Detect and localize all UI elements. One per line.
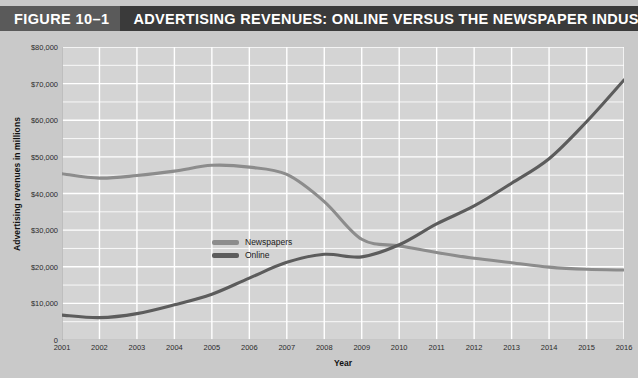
plot-wrap: NewspapersOnline: [62, 47, 624, 340]
x-tick-label: 2015: [578, 343, 595, 352]
x-tick-label: 2001: [54, 343, 71, 352]
figure-number: FIGURE 10–1: [0, 6, 120, 31]
x-tick-label: 2012: [466, 343, 483, 352]
y-tick-label: $40,000: [31, 189, 58, 198]
y-tick-label: $60,000: [31, 116, 58, 125]
x-tick-label: 2009: [353, 343, 370, 352]
legend-swatch-icon: [212, 253, 239, 258]
x-tick-label: 2004: [166, 343, 183, 352]
x-tick-label: 2005: [204, 343, 221, 352]
x-axis-tick-labels: 2001200220032004200520062007200820092010…: [62, 343, 624, 357]
y-tick-label: $80,000: [31, 43, 58, 52]
chart-legend: NewspapersOnline: [212, 237, 292, 260]
x-tick-label: 2006: [241, 343, 258, 352]
series-line-online: [62, 80, 624, 318]
x-tick-label: 2003: [129, 343, 146, 352]
figure-container: FIGURE 10–1 ADVERTISING REVENUES: ONLINE…: [0, 0, 638, 378]
x-tick-label: 2011: [429, 343, 445, 352]
legend-item-online[interactable]: Online: [212, 250, 292, 260]
x-tick-label: 2013: [503, 343, 520, 352]
chart-svg: [62, 47, 624, 340]
y-tick-label: $10,000: [31, 299, 58, 308]
x-axis-title: Year: [62, 358, 624, 368]
legend-label: Online: [245, 250, 270, 260]
legend-item-newspapers[interactable]: Newspapers: [212, 237, 292, 247]
x-tick-label: 2002: [91, 343, 108, 352]
x-tick-label: 2016: [616, 343, 633, 352]
x-tick-label: 2008: [316, 343, 333, 352]
figure-header: FIGURE 10–1 ADVERTISING REVENUES: ONLINE…: [0, 6, 638, 31]
x-tick-label: 2010: [391, 343, 408, 352]
y-tick-label: $30,000: [31, 226, 58, 235]
y-tick-label: $20,000: [31, 262, 58, 271]
chart-body: Advertising revenues in millions 0$10,00…: [0, 31, 638, 378]
x-tick-label: 2014: [541, 343, 558, 352]
y-tick-label: $50,000: [31, 152, 58, 161]
legend-label: Newspapers: [245, 237, 292, 247]
figure-title: ADVERTISING REVENUES: ONLINE VERSUS THE …: [120, 6, 638, 31]
y-axis-tick-labels: 0$10,000$20,000$30,000$40,000$50,000$60,…: [6, 47, 58, 340]
y-tick-label: $70,000: [31, 79, 58, 88]
x-tick-label: 2007: [278, 343, 295, 352]
legend-swatch-icon: [212, 240, 239, 245]
